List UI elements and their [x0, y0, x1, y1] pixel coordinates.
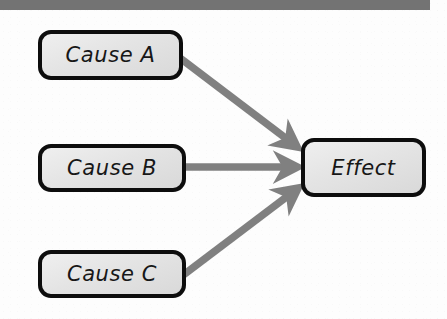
node-cause-a-label: Cause A [66, 43, 156, 67]
diagram-canvas: Cause A Cause B Cause C Effect [0, 0, 447, 319]
node-cause-b[interactable]: Cause B [38, 144, 186, 192]
edge-cause-c-to-effect [182, 189, 297, 276]
node-cause-a[interactable]: Cause A [38, 30, 183, 80]
node-cause-b-label: Cause B [67, 156, 157, 180]
node-cause-c[interactable]: Cause C [38, 250, 186, 298]
node-effect[interactable]: Effect [301, 138, 426, 197]
node-cause-c-label: Cause C [67, 262, 157, 286]
node-effect-label: Effect [331, 156, 395, 180]
edge-cause-a-to-effect [180, 58, 296, 146]
